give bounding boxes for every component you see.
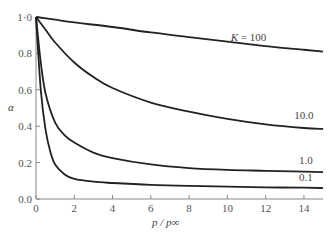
x-tick-label: 6	[148, 202, 154, 214]
x-tick-label: 14	[298, 202, 310, 214]
y-tick-label: 0.6	[18, 84, 32, 96]
series-labels: K = 10010.01.00.1	[230, 31, 314, 183]
y-axis-label: α	[8, 101, 14, 113]
series-line	[36, 17, 323, 172]
series-label: 1.0	[299, 154, 313, 166]
x-tick-label: 0	[33, 202, 39, 214]
y-tick-label: 0.8	[18, 47, 32, 59]
x-tick-label: 4	[110, 202, 116, 214]
y-tick-label: 1·0	[17, 11, 32, 23]
y-tick-label: 0.2	[18, 157, 32, 169]
series-label: K = 100	[230, 31, 267, 43]
x-tick-label: 2	[72, 202, 78, 214]
series-line	[36, 17, 323, 52]
x-axis: 02468101214	[33, 195, 323, 214]
x-tick-label: 10	[222, 202, 234, 214]
series-line	[36, 17, 323, 188]
y-tick-label: 0.4	[18, 120, 32, 132]
x-tick-label: 12	[260, 202, 271, 214]
series-line	[36, 17, 323, 129]
y-tick-label: 0.0	[18, 193, 32, 205]
series-label: 10.0	[294, 109, 314, 121]
series-label: 0.1	[299, 171, 313, 183]
x-axis-label: p / p∞	[151, 216, 180, 228]
line-chart: 0.00.20.40.60.81·0 02468101214 K = 10010…	[0, 0, 332, 236]
x-tick-label: 8	[186, 202, 192, 214]
series-group	[36, 17, 323, 188]
